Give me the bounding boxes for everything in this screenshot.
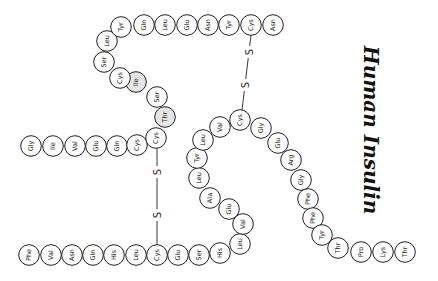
residue-val: Val: [41, 245, 62, 266]
residue-label: Val: [216, 122, 224, 132]
residue-thr: Thr: [395, 242, 416, 263]
disulfide-bond: SS: [152, 148, 163, 245]
residue-label: Glu: [174, 250, 182, 261]
residue-label: Cys: [236, 114, 244, 126]
residue-label: Ile: [132, 78, 140, 86]
residue-cys: Cys: [127, 135, 148, 156]
residue-his: His: [104, 245, 125, 266]
residue-label: Glu: [225, 204, 233, 215]
residue-ile: Ile: [43, 136, 64, 157]
residue-label: Phe: [25, 249, 33, 261]
residue-label: Tyr: [117, 22, 125, 33]
residue-label: Gly: [257, 123, 265, 134]
residue-cys: Cys: [146, 128, 167, 149]
disulfide-bond: SS: [240, 35, 255, 110]
residue-label: Leu: [195, 172, 203, 184]
residue-label: Tyr: [225, 20, 233, 31]
sulfur-label: S: [244, 49, 255, 55]
residue-ala: Ala: [200, 188, 221, 209]
residue-label: Cys: [116, 72, 124, 84]
residue-label: Ser: [100, 56, 108, 67]
residue-glu: Glu: [177, 15, 198, 36]
residue-label: Cys: [247, 19, 255, 31]
residue-label: Lys: [379, 246, 387, 257]
residue-label: Leu: [103, 35, 111, 47]
residue-label: Asn: [68, 249, 76, 261]
residue-leu: Leu: [230, 234, 251, 255]
residue-label: Gly: [297, 175, 305, 186]
residue-label: Val: [71, 141, 79, 151]
residue-label: His: [110, 249, 118, 260]
residue-his: His: [210, 243, 231, 264]
residue-label: Leu: [161, 19, 169, 31]
residue-label: Glu: [92, 141, 100, 152]
residue-ser: Ser: [147, 87, 168, 108]
residue-label: Thr: [161, 111, 169, 123]
residue-label: Phe: [304, 193, 312, 205]
residue-label: Gln: [89, 250, 97, 261]
residue-cys: Cys: [110, 68, 131, 89]
residue-thr: Thr: [155, 107, 176, 128]
residue-asn: Asn: [263, 15, 284, 36]
residue-label: Tyr: [193, 153, 201, 164]
residue-label: Cys: [152, 132, 160, 144]
residue-glu: Glu: [168, 245, 189, 266]
residue-gln: Gln: [83, 245, 104, 266]
residue-label: Arg: [287, 154, 295, 165]
residue-label: Val: [47, 250, 55, 260]
residue-leu: Leu: [189, 168, 210, 189]
residue-gln: Gln: [107, 136, 128, 157]
sulfur-label: S: [240, 82, 251, 88]
residue-ser: Ser: [94, 52, 115, 73]
residue-label: Glu: [183, 20, 191, 31]
residue-label: Ser: [153, 91, 161, 102]
residue-label: Leu: [199, 134, 207, 146]
residue-label: Leu: [132, 249, 140, 261]
residue-label: Phe: [309, 212, 317, 224]
residue-label: Gln: [113, 141, 121, 152]
residue-thr: Thr: [328, 238, 349, 259]
residue-label: Cys: [153, 249, 161, 261]
residue-glu: Glu: [219, 199, 240, 220]
residue-label: Ser: [195, 249, 203, 260]
sulfur-label: S: [152, 169, 163, 175]
residue-label: Ala: [206, 193, 214, 203]
residue-glu: Glu: [86, 136, 107, 157]
residue-label: Asn: [269, 19, 277, 31]
diagram-title: Human Insulin: [359, 45, 383, 215]
residue-label: Val: [239, 219, 247, 229]
residue-label: Leu: [236, 238, 244, 250]
residue-label: Gly: [27, 141, 35, 152]
residue-cys: Cys: [147, 245, 168, 266]
residue-gln: Gln: [134, 15, 155, 36]
residue-glu: Glu: [268, 133, 289, 154]
residue-leu: Leu: [126, 245, 147, 266]
residue-val: Val: [210, 117, 231, 138]
residue-tyr: Tyr: [187, 148, 208, 169]
residue-tyr: Tyr: [111, 17, 132, 38]
residue-label: His: [216, 247, 224, 258]
residue-cys: Cys: [230, 110, 251, 131]
residue-gly: Gly: [21, 136, 42, 157]
residue-pro: Pro: [351, 242, 372, 263]
sulfur-label: S: [152, 212, 163, 218]
residue-arg: Arg: [281, 150, 302, 171]
title-group: Human Insulin: [359, 45, 383, 215]
residue-gly: Gly: [291, 170, 312, 191]
residue-label: Asn: [204, 19, 212, 31]
residue-cys: Cys: [241, 15, 262, 36]
residue-label: Gln: [140, 20, 148, 31]
residue-label: Thr: [401, 246, 409, 258]
residue-label: Tyr: [318, 230, 326, 241]
residue-val: Val: [65, 136, 86, 157]
residue-label: Pro: [357, 247, 365, 257]
residue-lys: Lys: [373, 242, 394, 263]
b-chain: PheValAsnGlnHisLeuCysGluSerHisLeuValGluA…: [19, 110, 416, 266]
residue-tyr: Tyr: [219, 15, 240, 36]
residue-label: Thr: [334, 242, 342, 254]
residue-label: Ile: [49, 142, 57, 150]
insulin-diagram: SSSS GlyIleValGluGlnCysCysThrSerIleCysSe…: [0, 0, 438, 281]
residue-gly: Gly: [251, 118, 272, 139]
residue-ser: Ser: [189, 245, 210, 266]
residue-asn: Asn: [198, 15, 219, 36]
